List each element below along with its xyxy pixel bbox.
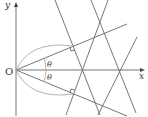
origin-label: O [5,66,13,77]
geometry-diagram: O x y θ θ [0,0,148,117]
x-axis-label: x [139,71,144,81]
line-3 [91,0,136,113]
y-axis-arrow-icon [14,2,18,7]
angle-lower-label: θ [47,73,52,82]
lower-ray [16,70,127,116]
angle-upper-label: θ [47,60,52,69]
line-2 [66,0,108,115]
line-4 [98,37,137,115]
upper-ray [16,24,127,70]
y-axis-label: y [4,0,11,10]
line-1 [55,0,100,115]
